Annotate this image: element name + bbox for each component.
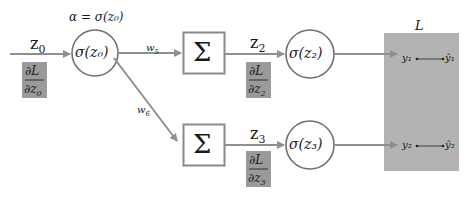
backprop-diagram: z0 ∂L ∂z0 α = σ(z₀) σ(z₀) w5 w6 Σ Σ z2 ∂…: [0, 0, 472, 197]
den-sub: 0: [37, 89, 42, 98]
gradient-num-z0: ∂L: [25, 65, 39, 77]
w-var: w: [146, 42, 155, 53]
w-var: w: [137, 104, 146, 115]
gradient-num-z2: ∂L: [249, 65, 263, 77]
gradient-den-z0: ∂z0: [24, 83, 42, 98]
den-sub: 3: [261, 178, 266, 187]
activation-node-0-label: σ(z₀): [75, 45, 108, 59]
weight-w5-label: w5: [146, 43, 159, 56]
gradient-den-z2: ∂z2: [248, 83, 266, 98]
den-var: ∂z: [24, 82, 37, 96]
target-y2: y₂: [402, 140, 412, 150]
activation-annotation: α = σ(z₀): [69, 11, 123, 23]
den-var: ∂z: [248, 82, 261, 96]
z2-label: z2: [250, 35, 265, 54]
target-y1: y₁: [402, 53, 412, 63]
weight-w6-label: w6: [137, 105, 150, 118]
z-sub: 2: [258, 42, 265, 55]
den-var: ∂z: [248, 171, 261, 185]
z3-label: z3: [250, 126, 265, 145]
prediction-yhat1: ŷ₁: [445, 53, 455, 63]
den-sub: 2: [261, 89, 266, 98]
gradient-num-z3: ∂L: [249, 154, 263, 166]
prediction-yhat2: ŷ₂: [445, 140, 455, 150]
activation-node-3-label: σ(z₃): [289, 137, 322, 151]
input-label: z0: [30, 36, 45, 55]
gradient-den-z3: ∂z3: [248, 172, 266, 187]
loss-label: L: [415, 19, 424, 32]
sum-symbol-1: Σ: [193, 39, 211, 65]
activation-node-2-label: σ(z₂): [289, 46, 322, 60]
z-sub: 3: [258, 133, 265, 146]
sum-symbol-2: Σ: [193, 131, 211, 157]
w-sub: 6: [146, 110, 150, 118]
edge-w6: [114, 58, 177, 141]
w-sub: 5: [155, 48, 159, 56]
z-subscript: 0: [38, 43, 45, 56]
